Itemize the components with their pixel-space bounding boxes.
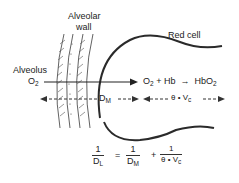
reaction-equation: O2 + Hb → HbO2 xyxy=(143,77,217,88)
plus-sign: + xyxy=(151,150,156,160)
theta-vc-label: θ • Vc xyxy=(171,94,191,104)
red-cell-label: Red cell xyxy=(168,31,201,40)
o2-arrowhead xyxy=(130,79,138,86)
equation-lhs-fraction: 1 DL xyxy=(92,145,104,168)
dm-arrowhead-right xyxy=(132,96,139,102)
thetavc-arrowhead-right xyxy=(218,96,225,102)
o2-left-label: O2 xyxy=(28,77,39,88)
wall-hatching xyxy=(57,40,85,116)
dm-arrowhead-left xyxy=(40,96,47,102)
alveolar-wall-label-line2: wall xyxy=(76,23,92,32)
red-cell-outline-lower xyxy=(104,122,214,140)
equation-dm-fraction: 1 DM xyxy=(126,145,140,168)
equals-sign: = xyxy=(115,150,120,160)
alveolar-wall-label-line1: Alveolar xyxy=(68,12,101,21)
alveolus-label: Alveolus xyxy=(13,66,47,75)
equation-thetavc-fraction: 1 θ • Vc xyxy=(160,145,182,166)
thetavc-arrowhead-left xyxy=(143,96,150,102)
dm-label: DM xyxy=(99,94,111,105)
